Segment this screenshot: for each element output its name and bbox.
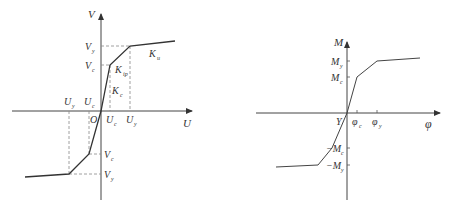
svg-text:φ: φ [372,116,378,127]
label-Kip: K ip [114,64,128,77]
svg-text:y: y [91,48,95,54]
label-phi-y: φ y [372,116,382,129]
label-Vc: V c [85,60,95,73]
label-neg-Vc: V c [104,149,114,162]
svg-text:c: c [92,103,95,109]
svg-text:M: M [330,72,340,83]
left-skeleton-curve [25,41,175,177]
svg-text:ip: ip [123,71,128,77]
label-neg-Uy: U y [64,96,75,109]
svg-text:y: y [339,63,343,69]
right-diagram: M φ Y M y M c φ c φ y −M c −M y [256,36,440,200]
svg-text:K: K [111,85,120,96]
origin-label: O [90,114,97,125]
svg-text:y: y [71,103,75,109]
svg-text:U: U [106,114,114,125]
label-Mc: M c [330,72,343,85]
svg-text:K: K [114,64,123,75]
svg-text:c: c [340,79,343,85]
left-diagram: V U O V y V c K u K ip K c U y U c [12,8,192,200]
label-Kc: K c [111,85,123,98]
right-x-axis-label: φ [425,117,432,131]
svg-text:U: U [84,96,92,107]
svg-text:c: c [359,123,362,129]
svg-text:y: y [378,123,382,129]
label-Ku: K u [148,48,160,61]
label-Vy: V y [85,41,95,54]
svg-text:u: u [157,55,160,61]
svg-text:K: K [148,48,157,59]
label-neg-My: −M y [326,160,344,173]
label-neg-Vy: V y [104,169,114,182]
label-Uy: U y [126,114,137,127]
svg-text:U: U [64,96,72,107]
svg-text:y: y [133,121,137,127]
diagram-canvas: V U O V y V c K u K ip K c U y U c [0,0,451,211]
svg-text:c: c [92,67,95,73]
svg-text:y: y [340,167,344,173]
svg-text:−M: −M [326,143,342,154]
svg-text:y: y [110,176,114,182]
svg-text:φ: φ [352,116,358,127]
svg-text:c: c [114,121,117,127]
label-neg-Mc: −M c [326,143,344,156]
svg-text:c: c [120,92,123,98]
left-y-axis-label: V [88,8,96,20]
label-My: M y [330,56,343,69]
svg-text:c: c [341,150,344,156]
label-neg-Uc: U c [84,96,95,109]
right-y-axis-label: M [333,36,344,48]
svg-text:M: M [330,56,340,67]
svg-text:U: U [126,114,134,125]
left-x-axis-label: U [183,117,192,129]
svg-text:c: c [111,156,114,162]
label-phi-c: φ c [352,116,362,129]
label-Uc: U c [106,114,117,127]
svg-text:−M: −M [326,160,342,171]
